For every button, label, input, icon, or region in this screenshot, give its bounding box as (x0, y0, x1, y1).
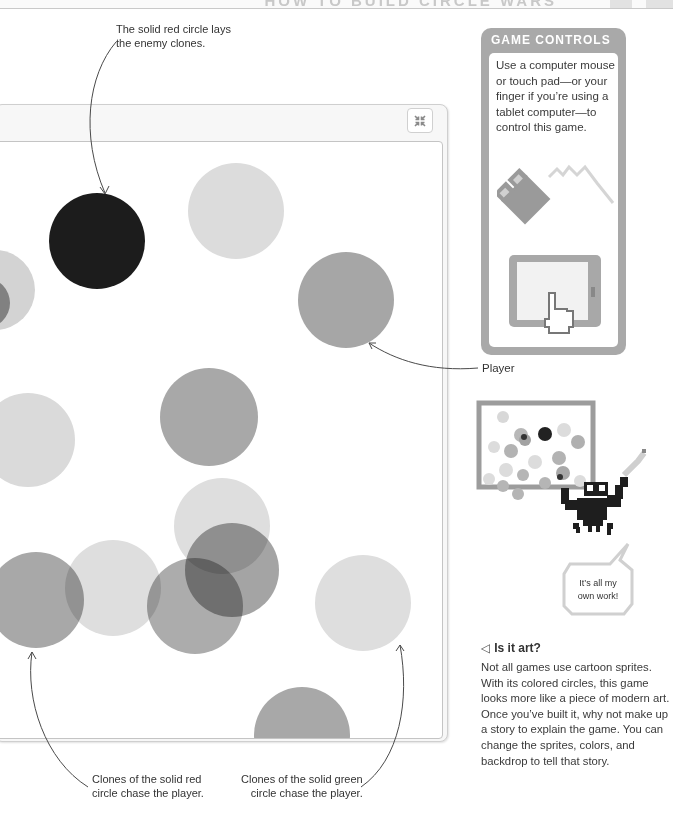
annotation-line: circle chase the player. (241, 786, 363, 800)
left-triangle-icon: ◁ (481, 641, 490, 655)
sprite-circle-mid (147, 558, 243, 654)
annotation-player: Player (482, 361, 515, 375)
sprite-circle-light (315, 555, 411, 651)
sprite-circle-mid (254, 687, 350, 739)
speech-bubble-text: It’s all my own work! (563, 577, 633, 603)
page-tab-marker (646, 0, 673, 8)
annotation-green-clones: Clones of the solid green circle chase t… (241, 772, 363, 800)
sprite-circle-player (298, 252, 394, 348)
annotation-line: Clones of the solid red (92, 772, 204, 786)
tablet-touch-icon (509, 255, 605, 343)
sidebar-body: Not all games use cartoon sprites. With … (481, 660, 673, 769)
speech-line: It’s all my (563, 577, 633, 590)
sprite-circle-mid (160, 368, 258, 466)
sprite-circle-light (188, 163, 284, 259)
annotation-red-circle: The solid red circle lays the enemy clon… (116, 22, 231, 50)
game-controls-title: GAME CONTROLS (491, 33, 611, 47)
annotation-line: Clones of the solid green (241, 772, 363, 786)
annotation-red-clones: Clones of the solid red circle chase the… (92, 772, 204, 800)
page-header-title: HOW TO BUILD CIRCLE WARS (264, 0, 557, 9)
sidebar-heading: ◁Is it art? (481, 641, 541, 655)
mouse-icon (497, 163, 617, 235)
game-controls-text: Use a computer mouse or touch pad—or you… (496, 58, 616, 136)
game-stage[interactable] (0, 141, 443, 739)
sprite-circle-light (0, 393, 75, 487)
sidebar-heading-text: Is it art? (494, 641, 541, 655)
sprite-circle-enemy-red-solid (49, 193, 145, 289)
shrink-arrows-icon (413, 114, 427, 128)
annotation-line: circle chase the player. (92, 786, 204, 800)
page-tab-marker (610, 0, 632, 8)
annotation-line: the enemy clones. (116, 36, 231, 50)
game-controls-panel: GAME CONTROLS Use a computer mouse or to… (481, 28, 626, 355)
game-controls-body: Use a computer mouse or touch pad—or you… (489, 53, 618, 347)
speech-line: own work! (563, 590, 633, 603)
annotation-line: The solid red circle lays (116, 22, 231, 36)
exit-fullscreen-button[interactable] (407, 108, 433, 133)
